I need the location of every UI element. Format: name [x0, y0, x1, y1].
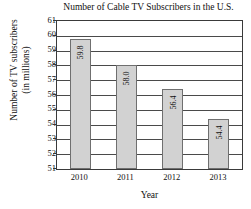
- bar: 58.0: [116, 65, 137, 169]
- gridline: [57, 36, 242, 37]
- y-tick-label: 55: [22, 104, 56, 113]
- y-tick-label: 53: [22, 134, 56, 143]
- bar-value-label: 54.4: [214, 125, 223, 139]
- bar: 59.8: [70, 39, 91, 169]
- x-tick-label: 2010: [59, 172, 99, 182]
- bar-value-label: 59.8: [76, 45, 85, 59]
- x-tick-label: 2011: [105, 172, 145, 182]
- bar-value-label: 58.0: [122, 72, 131, 86]
- x-axis-title: Year: [56, 190, 243, 201]
- x-tick-label: 2012: [152, 172, 192, 182]
- y-tick-label: 61: [22, 16, 56, 25]
- bar: 54.4: [208, 119, 229, 169]
- y-tick-label: 59: [22, 45, 56, 54]
- x-tick-label: 2013: [198, 172, 238, 182]
- y-tick-label: 52: [22, 149, 56, 158]
- y-tick-label: 54: [22, 119, 56, 128]
- bar: 56.4: [162, 89, 183, 169]
- y-tick-label: 57: [22, 75, 56, 84]
- y-tick-label: 56: [22, 90, 56, 99]
- chart-title: Number of Cable TV Subscribers in the U.…: [46, 1, 251, 13]
- y-tick-label: 51: [22, 164, 56, 173]
- bar-value-label: 56.4: [168, 96, 177, 110]
- plot-area: 59.858.056.454.4: [56, 20, 243, 170]
- y-tick-label: 58: [22, 60, 56, 69]
- y-tick-label: 60: [22, 30, 56, 39]
- bar-chart: Number of Cable TV Subscribers in the U.…: [0, 0, 251, 209]
- y-axis-ticks: 6160595857565554535251: [18, 20, 56, 170]
